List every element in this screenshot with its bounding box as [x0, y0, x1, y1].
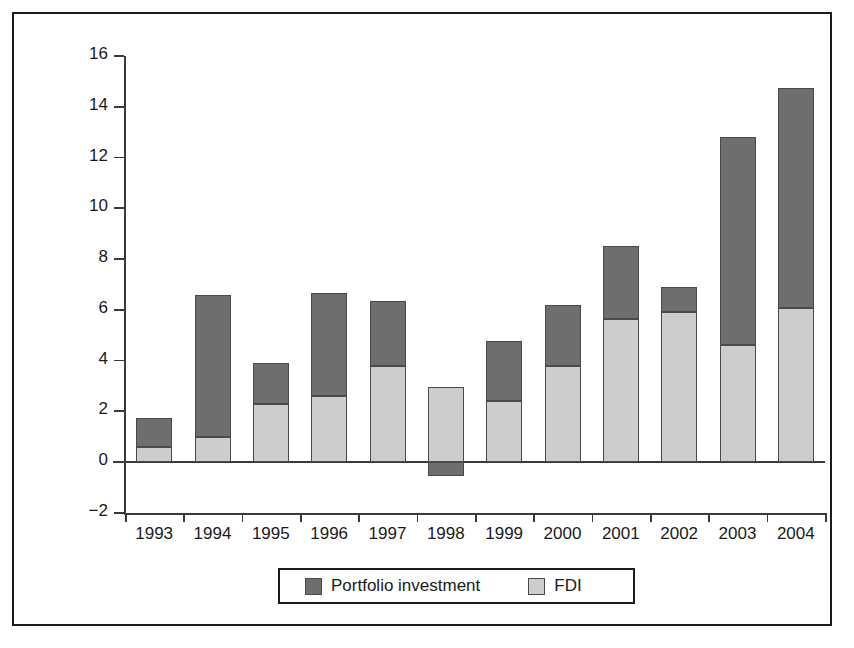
- legend-item-fdi: FDI: [528, 576, 581, 596]
- bar-segment-portfolio-1999: [486, 341, 522, 401]
- x-tick-label-1997: 1997: [358, 524, 416, 544]
- x-tick-label-2004: 2004: [767, 524, 825, 544]
- legend-label-fdi: FDI: [554, 576, 581, 596]
- x-tick-label-1993: 1993: [125, 524, 183, 544]
- bar-segment-fdi-1995: [253, 404, 289, 462]
- chart-figure: US$ (billions) 1614121086420−2 199319941…: [0, 0, 854, 648]
- x-tick-label-2002: 2002: [650, 524, 708, 544]
- x-tick-mark: [708, 513, 710, 522]
- x-tick-label-1999: 1999: [475, 524, 533, 544]
- bar-group-1993: [136, 418, 172, 462]
- bar-segment-portfolio-1993: [136, 418, 172, 447]
- bar-group-1997: [370, 301, 406, 462]
- bar-segment-fdi-2003: [720, 345, 756, 462]
- y-tick-0: 0: [90, 461, 124, 463]
- y-tick-label: 0: [99, 450, 108, 470]
- legend-label-portfolio: Portfolio investment: [331, 576, 480, 596]
- x-tick-label-1996: 1996: [300, 524, 358, 544]
- bar-segment-fdi-1993: [136, 447, 172, 462]
- x-tick-label-2000: 2000: [533, 524, 591, 544]
- bar-segment-fdi-2002: [661, 312, 697, 462]
- bar-segment-fdi-1998: [428, 387, 464, 462]
- bar-group-1994: [195, 295, 231, 462]
- x-tick-label-2003: 2003: [708, 524, 766, 544]
- y-tick-mark: [114, 461, 124, 463]
- y-tick-label: 4: [99, 349, 108, 369]
- legend-swatch-fdi: [528, 578, 545, 595]
- x-tick-mark: [825, 513, 827, 522]
- y-tick-mark: [114, 512, 124, 514]
- x-tick-mark: [767, 513, 769, 522]
- bar-segment-portfolio-1997: [370, 301, 406, 366]
- y-tick-6: 6: [90, 309, 124, 311]
- x-tick-mark: [125, 513, 127, 522]
- bar-segment-fdi-1997: [370, 366, 406, 462]
- y-tick-label: 16: [89, 44, 108, 64]
- bar-segment-fdi-2004: [778, 308, 814, 462]
- y-tick-10: 10: [90, 207, 124, 209]
- y-tick-label: 10: [89, 196, 108, 216]
- bar-group-1996: [311, 293, 347, 462]
- bar-segment-portfolio-2004: [778, 88, 814, 309]
- x-tick-mark: [183, 513, 185, 522]
- y-tick-mark: [114, 309, 124, 311]
- bar-group-2002: [661, 287, 697, 462]
- y-tick-label: −2: [89, 501, 108, 521]
- x-tick-label-1994: 1994: [183, 524, 241, 544]
- bar-segment-portfolio-2002: [661, 287, 697, 312]
- x-tick-mark: [592, 513, 594, 522]
- bar-group-1998: [428, 387, 464, 462]
- x-tick-mark: [417, 513, 419, 522]
- y-tick-label: 8: [99, 247, 108, 267]
- x-tick-label-1995: 1995: [242, 524, 300, 544]
- bar-segment-portfolio-2001: [603, 246, 639, 318]
- bar-segment-portfolio-negative-1998: [428, 462, 464, 476]
- y-tick-mark: [114, 258, 124, 260]
- y-tick-mark: [114, 157, 124, 159]
- y-tick-−2: −2: [90, 512, 124, 514]
- y-tick-label: 6: [99, 298, 108, 318]
- x-tick-mark: [650, 513, 652, 522]
- y-tick-mark: [114, 360, 124, 362]
- x-tick-label-1998: 1998: [417, 524, 475, 544]
- x-tick-mark: [242, 513, 244, 522]
- bar-segment-fdi-1996: [311, 396, 347, 462]
- y-tick-label: 14: [89, 95, 108, 115]
- x-tick-label-2001: 2001: [592, 524, 650, 544]
- bar-segment-portfolio-1996: [311, 293, 347, 396]
- bar-segment-portfolio-1994: [195, 295, 231, 437]
- x-tick-mark: [358, 513, 360, 522]
- y-tick-mark: [114, 106, 124, 108]
- x-tick-mark: [300, 513, 302, 522]
- chart-legend: Portfolio investment FDI: [278, 568, 635, 604]
- bar-segment-portfolio-2003: [720, 137, 756, 345]
- y-tick-label: 2: [99, 399, 108, 419]
- legend-swatch-portfolio: [305, 578, 322, 595]
- y-tick-8: 8: [90, 258, 124, 260]
- bar-group-2000: [545, 305, 581, 462]
- y-tick-2: 2: [90, 410, 124, 412]
- bar-segment-fdi-1994: [195, 437, 231, 462]
- bar-group-2004: [778, 88, 814, 462]
- y-tick-mark: [114, 207, 124, 209]
- bar-segment-fdi-2000: [545, 366, 581, 462]
- bar-group-1995: [253, 363, 289, 462]
- y-tick-label: 12: [89, 146, 108, 166]
- y-tick-12: 12: [90, 157, 124, 159]
- bar-segment-fdi-2001: [603, 319, 639, 462]
- y-tick-mark: [114, 55, 124, 57]
- y-tick-14: 14: [90, 106, 124, 108]
- plot-area-negative: [125, 462, 825, 514]
- bar-segment-portfolio-1995: [253, 363, 289, 404]
- plot-area: [125, 56, 825, 462]
- bar-group-2001: [603, 246, 639, 462]
- bar-segment-portfolio-2000: [545, 305, 581, 366]
- y-tick-4: 4: [90, 360, 124, 362]
- x-tick-mark: [533, 513, 535, 522]
- bar-group-2003: [720, 137, 756, 462]
- legend-item-portfolio: Portfolio investment: [305, 576, 480, 596]
- y-tick-16: 16: [90, 55, 124, 57]
- y-tick-mark: [114, 410, 124, 412]
- x-tick-mark: [475, 513, 477, 522]
- bar-segment-fdi-1999: [486, 401, 522, 462]
